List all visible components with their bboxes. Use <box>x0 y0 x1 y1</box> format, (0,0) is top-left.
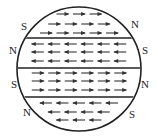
arrow-left-icon <box>97 110 110 114</box>
arrow-right-icon <box>90 31 103 35</box>
arrow-left-icon <box>47 42 60 46</box>
arrow-right-icon <box>73 31 86 35</box>
arrow-right-icon <box>114 88 127 92</box>
arrow-left-icon <box>72 101 85 105</box>
arrow-right-icon <box>73 12 86 16</box>
arrow-right-icon <box>57 31 70 35</box>
arrow-left-icon <box>39 101 52 105</box>
arrow-right-icon <box>98 88 111 92</box>
arrow-left-icon <box>89 118 102 122</box>
south-pole-label: S <box>129 109 135 120</box>
south-pole-label: S <box>11 79 17 90</box>
arrow-right-icon <box>81 71 94 75</box>
arrow-right-icon <box>65 88 78 92</box>
arrow-right-icon <box>48 71 61 75</box>
arrow-right-icon <box>48 79 61 83</box>
arrow-left-icon <box>105 101 118 105</box>
arrow-right-icon <box>48 22 61 26</box>
arrow-left-icon <box>47 50 60 54</box>
arrow-left-icon <box>80 42 93 46</box>
north-pole-label: N <box>23 107 31 118</box>
arrow-right-icon <box>32 79 45 83</box>
arrow-right-icon <box>40 31 53 35</box>
arrow-left-icon <box>64 42 77 46</box>
arrow-left-icon <box>97 42 110 46</box>
arrow-left-icon <box>97 50 110 54</box>
arrow-right-icon <box>32 71 45 75</box>
arrow-left-icon <box>31 59 44 63</box>
arrow-left-icon <box>97 59 110 63</box>
arrow-left-icon <box>47 59 60 63</box>
arrow-right-icon <box>81 88 94 92</box>
arrow-right-icon <box>98 22 111 26</box>
arrow-left-icon <box>113 42 126 46</box>
arrow-left-icon <box>47 110 60 114</box>
arrow-right-icon <box>81 79 94 83</box>
arrow-right-icon <box>98 71 111 75</box>
south-pole-label: S <box>21 21 27 32</box>
arrow-left-icon <box>113 50 126 54</box>
domain-circle <box>17 7 141 131</box>
arrow-left-icon <box>64 110 77 114</box>
arrow-left-icon <box>31 50 44 54</box>
arrow-right-icon <box>32 88 45 92</box>
arrow-left-icon <box>113 59 126 63</box>
arrow-right-icon <box>65 71 78 75</box>
arrow-right-icon <box>90 12 103 16</box>
arrow-left-icon <box>80 59 93 63</box>
north-pole-label: N <box>141 79 149 90</box>
arrow-right-icon <box>81 22 94 26</box>
arrow-left-icon <box>64 50 77 54</box>
arrow-left-icon <box>31 42 44 46</box>
arrow-right-icon <box>114 79 127 83</box>
arrow-left-icon <box>80 110 93 114</box>
arrow-right-icon <box>106 31 119 35</box>
arrow-left-icon <box>72 118 85 122</box>
arrow-right-icon <box>98 79 111 83</box>
arrow-right-icon <box>57 12 70 16</box>
arrow-right-icon <box>65 79 78 83</box>
arrow-right-icon <box>65 22 78 26</box>
arrow-left-icon <box>80 50 93 54</box>
arrow-right-icon <box>48 88 61 92</box>
arrow-left-icon <box>64 59 77 63</box>
arrow-right-icon <box>114 71 127 75</box>
arrow-left-icon <box>89 101 102 105</box>
south-pole-label: S <box>142 45 148 56</box>
arrow-left-icon <box>56 118 69 122</box>
north-pole-label: N <box>9 45 17 56</box>
arrow-left-icon <box>56 101 69 105</box>
north-pole-label: N <box>131 19 139 30</box>
